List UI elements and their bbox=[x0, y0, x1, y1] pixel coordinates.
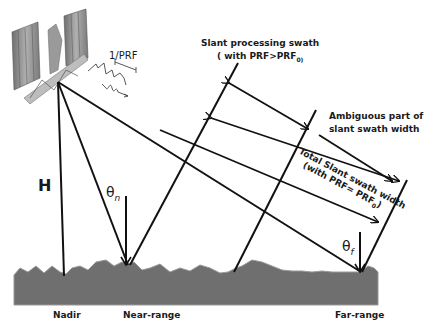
far-range-label: Far-range bbox=[335, 310, 384, 320]
ambiguous-label-line1: Ambiguous part of bbox=[329, 111, 423, 121]
near-range-label: Near-range bbox=[123, 310, 180, 320]
ground-terrain bbox=[14, 260, 378, 305]
nadir-line bbox=[58, 82, 64, 276]
swath-boundary-near bbox=[130, 63, 238, 265]
satellite-icon bbox=[12, 9, 88, 104]
ambiguous-label-line2: slant swath width bbox=[329, 124, 420, 134]
slant-processing-swath-label: Slant processing swath bbox=[201, 38, 319, 48]
slant-processing-condition-label: ( with PRF>PRF0) bbox=[217, 51, 303, 63]
geometry-lines bbox=[58, 63, 407, 276]
theta-f-label: θf bbox=[342, 238, 354, 257]
nadir-label: Nadir bbox=[53, 310, 81, 320]
near-range-line bbox=[58, 82, 128, 265]
processing-swath-arrow bbox=[229, 83, 308, 129]
prf-period-label: 1/PRF bbox=[109, 50, 137, 61]
theta-n-label: θn bbox=[106, 184, 120, 203]
height-label: H bbox=[38, 176, 51, 195]
diagram-canvas bbox=[0, 0, 426, 329]
pulse-waveform-icon bbox=[88, 59, 136, 97]
